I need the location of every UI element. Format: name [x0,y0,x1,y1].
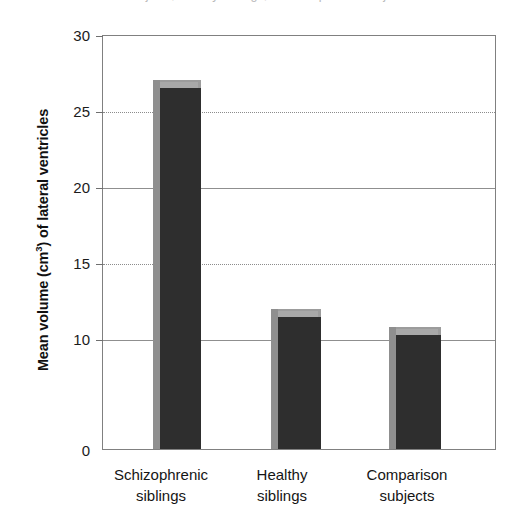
bar-top-inner [160,82,198,88]
y-tick-label-25: 25 [38,103,90,120]
x-label-line-2: siblings [228,485,336,506]
x-label-healthy-siblings: Healthy siblings [228,464,336,506]
x-label-line-1: Schizophrenic [102,464,220,485]
x-label-line-2: subjects [342,485,472,506]
bar-front-face [271,309,321,449]
bar-chart-figure: Mean volume (cm3) of lateral ventricles [0,0,509,532]
y-tick-15 [96,264,103,265]
y-tick-label-15: 15 [38,255,90,272]
y-tick-10 [96,340,103,341]
bar-comparison-subjects [389,327,441,449]
bar-healthy-siblings [271,309,321,449]
plot-area [102,35,496,450]
y-axis-title-superscript: 3 [33,247,44,252]
y-tick-30 [96,36,103,37]
y-axis-title: Mean volume (cm3) of lateral ventricles [30,25,56,455]
y-tick-label-20: 20 [38,179,90,196]
x-label-schizophrenic-siblings: Schizophrenic siblings [102,464,220,506]
y-tick-25 [96,112,103,113]
bar-schizophrenic-siblings [153,80,201,449]
bar-top-inner [396,329,438,335]
y-tick-20 [96,188,103,189]
bar-left-bevel [153,80,160,449]
y-tick-label-10: 10 [38,331,90,348]
x-label-line-1: Healthy [228,464,336,485]
y-tick-label-0: 0 [38,442,90,459]
x-label-line-2: siblings [102,485,220,506]
x-label-comparison-subjects: Comparison subjects [342,464,472,506]
bar-front-face [389,327,441,449]
bar-left-bevel [271,309,278,449]
x-label-line-1: Comparison [342,464,472,485]
bar-left-bevel [389,327,396,449]
y-tick-label-30: 30 [38,27,90,44]
bar-front-face [153,80,201,449]
bar-top-inner [278,311,318,317]
